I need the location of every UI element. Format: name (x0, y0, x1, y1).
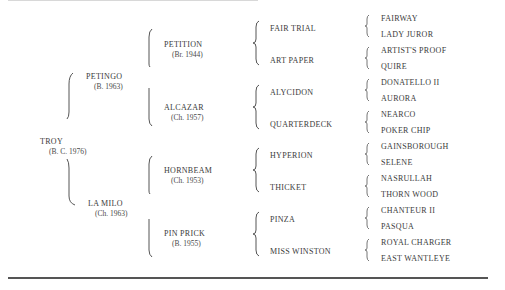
brace-hornbeam (146, 155, 154, 195)
top-rule (8, 0, 258, 1)
brace-pin-prick (146, 218, 154, 258)
gen4-horse: DONATELLO II (381, 78, 439, 87)
brace-gen4-4 (364, 110, 372, 134)
brace-gen4-3 (364, 78, 372, 102)
gen4-horse: PASQUA (381, 222, 414, 231)
horse-name: HORNBEAM (164, 166, 212, 175)
brace-sire-line (66, 72, 76, 120)
gen4-horse: NEARCO (381, 110, 416, 119)
gen4-horse: FAIRWAY (381, 14, 418, 23)
gen3-horse: THICKET (270, 183, 306, 192)
gen3-horse: PINZA (270, 215, 295, 224)
subject-detail: (B. C. 1976) (49, 147, 87, 156)
brace-alcazar (146, 87, 154, 127)
brace-gen3-4 (252, 211, 262, 257)
gen4-horse: LADY JUROR (381, 30, 433, 39)
horse-detail: (Br. 1944) (172, 50, 203, 59)
brace-gen3-1 (252, 20, 262, 66)
gen4-horse: POKER CHIP (381, 126, 430, 135)
horse-detail: (B. 1955) (172, 239, 201, 248)
gen4-horse: SELENE (381, 158, 413, 167)
brace-gen4-1 (364, 14, 372, 38)
horse-name: ALCAZAR (164, 103, 204, 112)
dam-detail: (Ch. 1963) (95, 209, 128, 218)
gen3-horse: HYPERION (270, 151, 313, 160)
horse-name: PIN PRICK (164, 229, 205, 238)
gen3-horse: QUARTERDECK (270, 120, 332, 129)
horse-name: PETITION (164, 40, 202, 49)
gen4-horse: QUIRE (381, 62, 407, 71)
gen3-horse: MISS WINSTON (270, 247, 331, 256)
gen4-horse: AURORA (381, 94, 417, 103)
brace-petition (146, 28, 154, 68)
gen4-horse: NASRULLAH (381, 174, 432, 183)
gen4-horse: GAINSBOROUGH (381, 142, 449, 151)
dam-name: LA MILO (88, 199, 123, 208)
gen4-horse: CHANTEUR II (381, 206, 435, 215)
brace-dam-line (66, 158, 78, 206)
sire-detail: (B. 1963) (94, 82, 123, 91)
gen3-horse: ALYCIDON (270, 88, 313, 97)
gen4-horse: EAST WANTLEYE (381, 254, 450, 263)
brace-gen3-3 (252, 147, 262, 193)
horse-detail: (Ch. 1957) (171, 113, 204, 122)
brace-gen4-8 (364, 238, 372, 262)
gen4-horse: ROYAL CHARGER (381, 238, 452, 247)
brace-gen4-7 (364, 206, 372, 230)
gen3-horse: ART PAPER (270, 56, 314, 65)
gen4-horse: ARTIST'S PROOF (381, 46, 446, 55)
brace-gen4-2 (364, 46, 372, 70)
brace-gen4-5 (364, 142, 372, 166)
bottom-rule (8, 277, 488, 279)
brace-gen3-2 (252, 84, 262, 130)
subject-name: TROY (40, 137, 63, 146)
horse-detail: (Ch. 1953) (171, 176, 204, 185)
sire-name: PETINGO (86, 72, 122, 81)
gen3-horse: FAIR TRIAL (270, 24, 316, 33)
brace-gen4-6 (364, 174, 372, 198)
gen4-horse: THORN WOOD (381, 190, 438, 199)
